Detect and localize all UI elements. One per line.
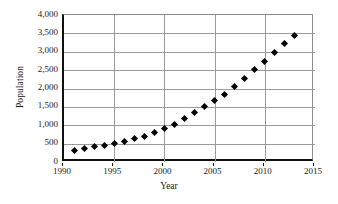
gridline-horizontal xyxy=(64,125,315,126)
data-point xyxy=(111,140,118,147)
data-point xyxy=(151,129,158,136)
x-axis-tick-label: 2005 xyxy=(193,167,233,176)
gridline-vertical xyxy=(215,15,216,162)
data-point xyxy=(181,115,188,122)
gridline-vertical xyxy=(265,15,266,162)
data-point xyxy=(241,75,248,82)
y-axis-tick-label: 3,500 xyxy=(24,28,58,37)
data-point xyxy=(201,103,208,110)
data-point xyxy=(81,145,88,152)
y-axis-tick-label: 3,000 xyxy=(24,46,58,55)
gridline-horizontal xyxy=(64,107,315,108)
x-axis-tick-label: 1990 xyxy=(42,167,82,176)
data-point xyxy=(141,133,148,140)
data-point xyxy=(91,143,98,150)
gridline-horizontal xyxy=(64,89,315,90)
plot-area xyxy=(62,14,313,161)
gridline-vertical xyxy=(164,15,165,162)
x-axis-tickmark xyxy=(263,163,264,166)
data-point xyxy=(70,147,77,154)
data-point xyxy=(191,109,198,116)
data-point xyxy=(101,142,108,149)
x-axis-tickmark xyxy=(112,163,113,166)
data-point xyxy=(261,58,268,65)
y-axis-tick-label: 500 xyxy=(24,138,58,147)
y-axis-tick-label: 0 xyxy=(24,157,58,166)
x-axis-tickmark xyxy=(313,163,314,166)
y-axis-tick-label: 2,000 xyxy=(24,83,58,92)
data-point xyxy=(171,121,178,128)
x-axis-tick-label: 1995 xyxy=(92,167,132,176)
y-axis-tick-label: 1,500 xyxy=(24,101,58,110)
data-point xyxy=(271,49,278,56)
data-point xyxy=(281,40,288,47)
x-axis-title: Year xyxy=(0,181,338,191)
population-growth-chart: Population 05001,0001,5002,0002,5003,000… xyxy=(0,0,338,204)
data-point xyxy=(221,91,228,98)
x-axis-tickmark xyxy=(162,163,163,166)
y-axis-tick-label: 1,000 xyxy=(24,120,58,129)
x-axis-tick-label: 2010 xyxy=(243,167,283,176)
y-axis-tick-label: 2,500 xyxy=(24,65,58,74)
data-point xyxy=(251,66,258,73)
gridline-horizontal xyxy=(64,70,315,71)
x-axis-tickmark xyxy=(62,163,63,166)
x-axis-tick-label: 2000 xyxy=(142,167,182,176)
y-axis-tick-label: 4,000 xyxy=(24,10,58,19)
x-axis-tick-label: 2015 xyxy=(293,167,333,176)
data-point xyxy=(211,97,218,104)
x-axis-tickmark xyxy=(213,163,214,166)
gridline-horizontal xyxy=(64,33,315,34)
data-point xyxy=(131,135,138,142)
